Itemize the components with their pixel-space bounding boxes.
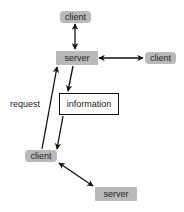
edge-server-top-information — [68, 66, 73, 91]
node-server-bottom: server — [95, 187, 137, 201]
node-server-bottom-label: server — [103, 189, 128, 199]
edge-label-request: request — [10, 99, 40, 109]
node-client-bottom-label: client — [30, 151, 51, 161]
node-client-right-label: client — [150, 53, 171, 63]
node-server-top: server — [56, 51, 98, 65]
edge-request — [42, 67, 57, 149]
edge-information-client-bottom — [57, 116, 63, 149]
edge-client-bottom-server-bottom — [59, 163, 93, 186]
node-client-top-label: client — [65, 12, 86, 22]
node-information-label: information — [67, 99, 112, 109]
node-client-right: client — [145, 52, 176, 64]
node-client-bottom: client — [25, 150, 57, 162]
node-client-top: client — [60, 11, 91, 23]
node-server-top-label: server — [64, 53, 89, 63]
node-information: information — [59, 93, 119, 115]
client-server-diagram: client server client information request… — [0, 0, 184, 212]
